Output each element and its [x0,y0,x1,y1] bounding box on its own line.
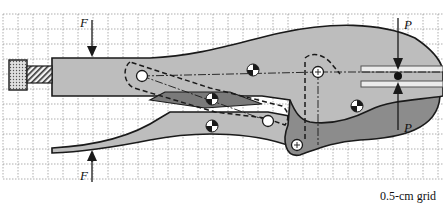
pin-c [263,116,274,127]
threaded-screw [27,66,52,83]
label-jaw-top: P [403,17,412,32]
upper-jaw-bar [361,66,443,72]
pin-a [137,71,148,82]
com-lower-jaw [351,100,363,112]
lower-jaw-bar [361,81,443,87]
com-link [206,93,218,105]
grid-caption: 0.5-cm grid [380,189,436,203]
com-lower-handle [206,120,218,132]
com-upper-handle [247,64,259,76]
label-force-top: F [79,15,89,30]
force-arrow-top [87,20,97,57]
adjusting-screw-knob [9,60,27,90]
pliers-diagram: F F P P 0.5-cm grid [0,0,443,205]
workpiece [394,72,402,80]
label-jaw-bottom: P [403,120,412,135]
label-force-bottom: F [79,168,89,183]
force-arrow-bottom [87,150,97,182]
